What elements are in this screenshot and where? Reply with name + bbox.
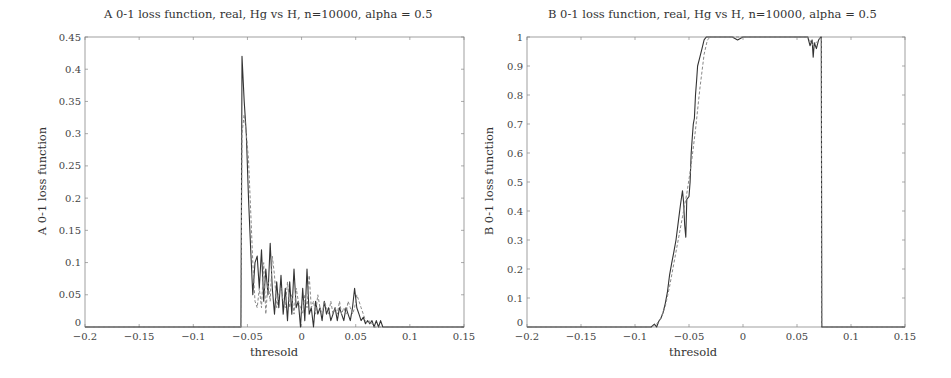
y-tick-label: 0.05 bbox=[59, 289, 81, 300]
x-tick-label: 0.15 bbox=[894, 331, 916, 342]
y-tick-label: 0.8 bbox=[507, 90, 523, 101]
series-solid bbox=[527, 37, 905, 327]
y-tick-label: 0.9 bbox=[507, 61, 523, 72]
series-dashed bbox=[85, 114, 464, 327]
chart-a-plot: −0.2−0.15−0.1−0.0500.050.10.1500.050.10.… bbox=[0, 0, 475, 378]
x-tick-label: −0.05 bbox=[674, 331, 705, 342]
x-tick-label: 0.05 bbox=[345, 331, 367, 342]
x-tick-label: −0.1 bbox=[181, 331, 205, 342]
series-dashed bbox=[527, 37, 905, 327]
plot-frame bbox=[527, 37, 905, 327]
y-tick-label: 0 bbox=[517, 317, 523, 328]
x-tick-label: 0.1 bbox=[843, 331, 859, 342]
y-tick-label: 0.5 bbox=[507, 177, 523, 188]
y-tick-label: 1 bbox=[517, 32, 523, 43]
x-tick-label: −0.1 bbox=[623, 331, 647, 342]
y-tick-label: 0.2 bbox=[65, 193, 81, 204]
y-tick-label: 0.2 bbox=[507, 264, 523, 275]
x-tick-label: 0 bbox=[298, 331, 304, 342]
x-tick-label: −0.2 bbox=[73, 331, 97, 342]
chart-b: B 0-1 loss function, real, Hg vs H, n=10… bbox=[476, 0, 951, 378]
y-tick-label: 0.6 bbox=[507, 148, 523, 159]
x-tick-label: −0.15 bbox=[566, 331, 597, 342]
y-tick-label: 0.4 bbox=[507, 206, 523, 217]
y-tick-label: 0.1 bbox=[65, 257, 81, 268]
y-tick-label: 0.3 bbox=[65, 128, 81, 139]
plot-frame bbox=[85, 37, 464, 327]
y-tick-label: 0 bbox=[75, 317, 81, 328]
x-tick-label: −0.15 bbox=[124, 331, 155, 342]
y-tick-label: 0.3 bbox=[507, 235, 523, 246]
chart-b-plot: −0.2−0.15−0.1−0.0500.050.10.1500.10.20.3… bbox=[476, 0, 951, 378]
series-solid bbox=[85, 56, 464, 327]
y-tick-label: 0.45 bbox=[59, 32, 81, 43]
x-tick-label: 0.1 bbox=[402, 331, 418, 342]
y-tick-label: 0.15 bbox=[59, 225, 81, 236]
x-tick-label: −0.05 bbox=[232, 331, 263, 342]
y-tick-label: 0.4 bbox=[65, 64, 81, 75]
y-tick-label: 0.7 bbox=[507, 119, 523, 130]
y-tick-label: 0.35 bbox=[59, 96, 81, 107]
x-tick-label: 0.05 bbox=[786, 331, 808, 342]
x-tick-label: 0.15 bbox=[453, 331, 475, 342]
chart-a: A 0-1 loss function, real, Hg vs H, n=10… bbox=[0, 0, 475, 378]
y-tick-label: 0.1 bbox=[507, 293, 523, 304]
y-tick-label: 0.25 bbox=[59, 160, 81, 171]
x-tick-label: 0 bbox=[740, 331, 746, 342]
x-tick-label: −0.2 bbox=[515, 331, 539, 342]
